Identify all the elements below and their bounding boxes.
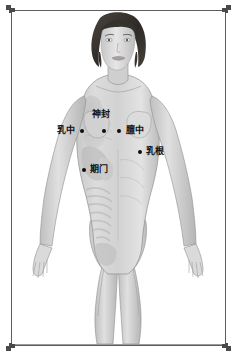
frame-corner-bottom-left xyxy=(6,338,19,351)
acupuncture-chart-page: 神封 乳中 膻中 乳根 期门 xyxy=(0,0,237,356)
frame-corner-bottom-right xyxy=(218,338,231,351)
frame-corner-top-left xyxy=(6,5,19,18)
decorative-frame xyxy=(11,10,226,346)
frame-corner-top-right xyxy=(218,5,231,18)
